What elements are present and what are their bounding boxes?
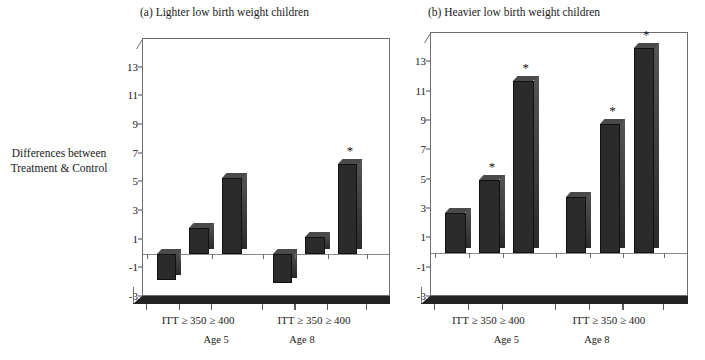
x-tick-mark bbox=[367, 254, 368, 259]
bar-side-face bbox=[466, 208, 471, 248]
y-tick-mark bbox=[426, 178, 430, 179]
x-tick-mark-floor bbox=[555, 304, 556, 310]
y-tick-mark bbox=[426, 237, 430, 238]
y-tick-mark bbox=[138, 238, 142, 239]
x-axis-age-label: Age 8 bbox=[557, 334, 637, 345]
y-tick-mark bbox=[138, 181, 142, 182]
x-axis-group-label: ITT ≥ 350 ≥ 400 bbox=[557, 314, 661, 326]
y-tick-mark bbox=[426, 61, 430, 62]
x-tick-mark-floor bbox=[589, 304, 590, 310]
bar bbox=[634, 48, 654, 253]
x-tick-mark bbox=[623, 253, 624, 258]
x-axis-age-label: Age 8 bbox=[262, 334, 342, 345]
bar-side-face bbox=[620, 119, 625, 248]
x-tick-mark-floor bbox=[262, 304, 263, 310]
y-axis-label: Differences between Treatment & Control bbox=[6, 146, 112, 176]
x-axis-group-label: ITT ≥ 350 ≥ 400 bbox=[146, 314, 250, 326]
y-tick-mark bbox=[426, 120, 430, 121]
figure-root: Differences between Treatment & Control … bbox=[0, 0, 705, 360]
x-tick-mark-floor bbox=[502, 304, 503, 310]
bar bbox=[479, 180, 499, 253]
bar bbox=[273, 254, 293, 283]
y-axis-label-line2: Treatment & Control bbox=[6, 161, 112, 176]
panel-a: (a) Lighter low birth weight children 13… bbox=[112, 0, 402, 360]
bar bbox=[157, 254, 177, 280]
y-tick-mark bbox=[138, 95, 142, 96]
bar-side-face bbox=[534, 76, 539, 248]
bar-top-face bbox=[338, 159, 362, 164]
x-tick-mark bbox=[664, 253, 665, 258]
y-tick-label: -1 bbox=[129, 262, 138, 272]
x-tick-mark bbox=[295, 254, 296, 259]
x-tick-mark bbox=[180, 254, 181, 259]
x-tick-mark bbox=[147, 254, 148, 259]
plot-floor-corner bbox=[421, 296, 430, 304]
significance-star: * bbox=[598, 106, 627, 116]
y-tick-label: -1 bbox=[417, 262, 426, 272]
x-tick-mark-floor bbox=[468, 304, 469, 310]
bar-top-face bbox=[157, 249, 181, 254]
x-axis-group-label: ITT ≥ 350 ≥ 400 bbox=[436, 314, 540, 326]
panel-b-title: (b) Heavier low birth weight children bbox=[428, 6, 705, 18]
bar-side-face bbox=[586, 192, 591, 248]
y-tick-mark bbox=[426, 266, 430, 267]
plot-floor bbox=[430, 296, 688, 304]
x-tick-mark bbox=[212, 254, 213, 259]
y-tick-label: 11 bbox=[415, 86, 426, 96]
bar-top-face bbox=[600, 119, 625, 124]
plot-floor-corner bbox=[133, 296, 142, 304]
bar-side-face bbox=[242, 173, 247, 249]
y-tick-mark bbox=[138, 267, 142, 268]
x-tick-mark-floor bbox=[146, 304, 147, 310]
y-tick-mark bbox=[138, 152, 142, 153]
bar bbox=[600, 124, 620, 253]
y-tick-mark bbox=[426, 90, 430, 91]
x-tick-mark-floor bbox=[211, 304, 212, 310]
x-tick-mark bbox=[556, 253, 557, 258]
plot-floor bbox=[142, 296, 390, 304]
y-tick-mark bbox=[426, 149, 430, 150]
x-tick-mark bbox=[263, 254, 264, 259]
x-axis-age-label: Age 5 bbox=[176, 334, 256, 345]
x-tick-mark-floor bbox=[179, 304, 180, 310]
y-tick-mark bbox=[426, 208, 430, 209]
x-tick-mark bbox=[469, 253, 470, 258]
x-tick-mark-floor bbox=[622, 304, 623, 310]
x-axis-age-label: Age 5 bbox=[466, 334, 546, 345]
bar-side-face bbox=[654, 43, 659, 248]
significance-star: * bbox=[511, 63, 540, 73]
x-tick-mark bbox=[503, 253, 504, 258]
y-tick-label: 13 bbox=[415, 56, 426, 66]
x-tick-mark-floor bbox=[434, 304, 435, 310]
x-tick-mark-floor bbox=[294, 304, 295, 310]
y-tick-mark bbox=[138, 124, 142, 125]
y-axis-label-line1: Differences between bbox=[6, 146, 112, 161]
x-tick-mark bbox=[590, 253, 591, 258]
bar-side-face bbox=[209, 223, 214, 249]
panel-a-title: (a) Lighter low birth weight children bbox=[140, 6, 430, 18]
bar bbox=[222, 178, 242, 254]
x-tick-mark-floor bbox=[663, 304, 664, 310]
panel-b-plot-area: **** bbox=[430, 32, 688, 296]
x-tick-mark-floor bbox=[327, 304, 328, 310]
bar-side-face bbox=[500, 175, 505, 248]
y-tick-label: 11 bbox=[127, 90, 138, 100]
significance-star: * bbox=[336, 146, 365, 156]
bar bbox=[445, 213, 465, 253]
x-tick-mark bbox=[435, 253, 436, 258]
panel-a-plot-area: * bbox=[142, 38, 390, 296]
bar-top-face bbox=[634, 43, 659, 48]
panel-b: (b) Heavier low birth weight children 13… bbox=[400, 0, 705, 360]
significance-star: * bbox=[477, 162, 506, 172]
bar-top-face bbox=[273, 249, 297, 254]
bar-top-face bbox=[479, 175, 504, 180]
bar bbox=[566, 197, 586, 253]
bar-side-face bbox=[357, 159, 362, 249]
significance-star: * bbox=[632, 30, 661, 40]
x-tick-mark-floor bbox=[366, 304, 367, 310]
bar bbox=[305, 237, 325, 254]
bar bbox=[513, 81, 533, 253]
x-axis-group-label: ITT ≥ 350 ≥ 400 bbox=[262, 314, 366, 326]
panel-b-y-axis: 131197531-1-3 bbox=[400, 0, 430, 360]
bar bbox=[338, 164, 358, 254]
